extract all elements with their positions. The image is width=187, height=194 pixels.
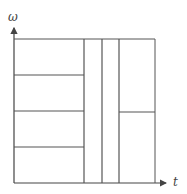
tiling-diagram: [0, 0, 187, 194]
y-axis-label: ω: [8, 10, 18, 24]
x-axis-label: t: [173, 175, 178, 189]
